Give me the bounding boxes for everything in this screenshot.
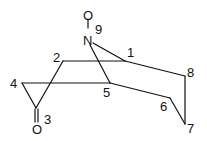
position-label-9: 9 [95,22,102,37]
bond-n9-c1 [93,43,125,61]
position-label-6: 6 [160,99,167,114]
position-label-7: 7 [187,121,194,136]
bond-c4-c3 [22,83,36,108]
position-label-3: 3 [44,112,51,127]
position-label-8: 8 [187,65,194,80]
nitrogen-atom: N [83,33,92,48]
bond-c2-c3 [36,61,63,108]
bond-c7-c6 [170,98,185,124]
position-label-5: 5 [103,85,110,100]
oxygen-atom-nitroxide: O [83,8,93,23]
oxygen-atom-carbonyl: O [32,122,42,137]
position-label-4: 4 [10,76,17,91]
position-label-1: 1 [127,45,134,60]
bond-c6-c5 [110,83,170,98]
position-label-2: 2 [53,50,60,65]
bond-c1-c8 [125,61,185,76]
bicyclic-nitroxide-structure: O N O 9 1 2 8 4 5 6 3 7 [0,0,207,141]
